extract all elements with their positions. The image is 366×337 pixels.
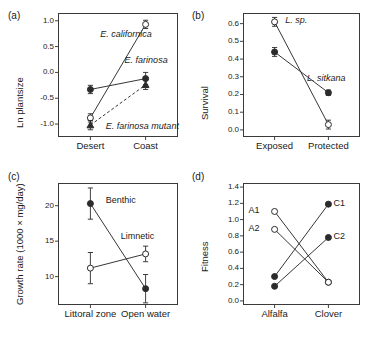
data-point-marker bbox=[272, 283, 278, 289]
x-tick-label: Clover bbox=[288, 308, 366, 319]
data-point-marker bbox=[272, 208, 278, 214]
series-line bbox=[275, 229, 329, 282]
y-tick-label: 0.4 bbox=[199, 263, 239, 272]
data-point-marker bbox=[272, 274, 278, 280]
data-point-marker bbox=[325, 279, 331, 285]
y-tick-label: 0.2 bbox=[199, 280, 239, 289]
data-point-marker bbox=[325, 234, 331, 240]
y-tick-label: 0.6 bbox=[199, 247, 239, 256]
y-tick-label: 0.8 bbox=[199, 231, 239, 240]
plot-graphics-panel-4 bbox=[0, 0, 366, 337]
y-tick-label: 1.0 bbox=[199, 215, 239, 224]
series-line bbox=[275, 204, 329, 276]
y-tick-label: 1.2 bbox=[199, 198, 239, 207]
series-label: A2 bbox=[249, 223, 260, 233]
data-point-marker bbox=[272, 226, 278, 232]
series-line bbox=[275, 237, 329, 286]
y-tick-label: 0.0 bbox=[199, 296, 239, 305]
series-label: C1 bbox=[333, 198, 345, 208]
series-label: A1 bbox=[249, 205, 260, 215]
data-point-marker bbox=[325, 201, 331, 207]
y-tick-label: 1.4 bbox=[199, 182, 239, 191]
reaction-norm-figure: (a)Ln plantsize1.00.50.0-0.5-1.0DesertCo… bbox=[0, 0, 366, 337]
series-label: C2 bbox=[333, 231, 345, 241]
series-line bbox=[275, 211, 329, 282]
